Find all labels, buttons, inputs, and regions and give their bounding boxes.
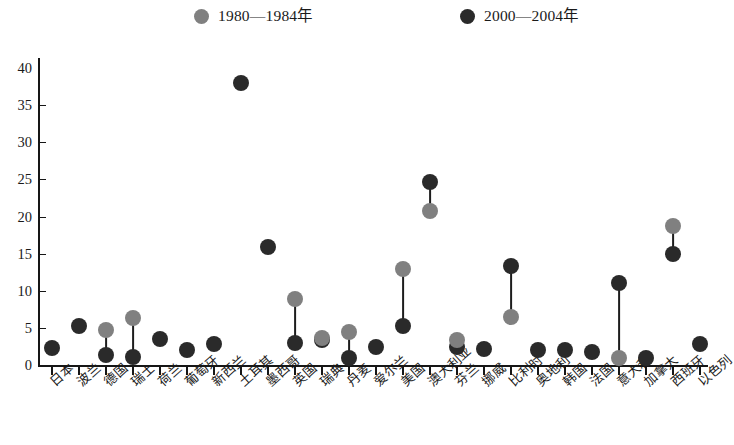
y-tick-label: 40 xyxy=(2,61,32,76)
y-tick-mark xyxy=(39,142,46,143)
data-point-late xyxy=(179,342,195,358)
y-tick-label: 15 xyxy=(2,246,32,261)
data-point-early xyxy=(98,322,114,338)
data-point-late xyxy=(206,336,222,352)
data-point-late xyxy=(692,336,708,352)
data-point-late xyxy=(368,339,384,355)
data-point-early xyxy=(665,218,681,234)
data-point-late xyxy=(395,318,411,334)
data-point-early xyxy=(341,324,357,340)
data-point-late xyxy=(503,258,519,274)
data-point-early xyxy=(395,261,411,277)
y-tick-label: 20 xyxy=(2,209,32,224)
data-point-early xyxy=(422,203,438,219)
data-point-late xyxy=(287,335,303,351)
data-point-early xyxy=(287,291,303,307)
data-point-late xyxy=(341,350,357,366)
data-point-late xyxy=(71,318,87,334)
y-tick-mark xyxy=(39,179,46,180)
y-tick-mark xyxy=(39,105,46,106)
data-point-early xyxy=(611,350,627,366)
data-point-late xyxy=(98,347,114,363)
data-point-late xyxy=(557,342,573,358)
data-point-early xyxy=(503,309,519,325)
data-point-early xyxy=(314,330,330,346)
data-point-late xyxy=(476,341,492,357)
y-tick-mark xyxy=(39,328,46,329)
y-tick-label: 35 xyxy=(2,98,32,113)
data-point-late xyxy=(611,275,627,291)
data-point-early xyxy=(125,310,141,326)
data-point-late xyxy=(665,246,681,262)
connector-line xyxy=(618,283,620,358)
data-point-late xyxy=(233,75,249,91)
y-tick-label: 10 xyxy=(2,284,32,299)
data-point-late xyxy=(584,344,600,360)
y-tick-mark xyxy=(39,217,46,218)
data-point-late xyxy=(44,340,60,356)
y-tick-label: 25 xyxy=(2,172,32,187)
y-tick-mark xyxy=(39,291,46,292)
data-point-late xyxy=(422,174,438,190)
y-tick-label: 0 xyxy=(2,358,32,373)
data-point-early xyxy=(449,332,465,348)
data-point-late xyxy=(125,349,141,365)
data-point-late xyxy=(530,342,546,358)
y-tick-label: 5 xyxy=(2,321,32,336)
y-tick-label: 30 xyxy=(2,135,32,150)
data-point-late xyxy=(638,350,654,366)
data-point-late xyxy=(260,239,276,255)
data-point-late xyxy=(152,331,168,347)
y-tick-mark xyxy=(39,254,46,255)
